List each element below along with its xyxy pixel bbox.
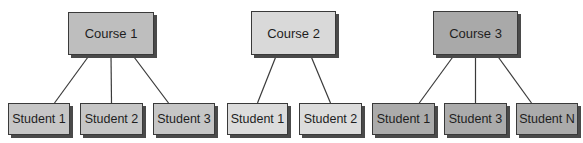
connector-line	[133, 55, 169, 103]
course-1-student-node-label: Student 3	[157, 112, 211, 126]
course-1-student-node-label: Student 2	[85, 112, 139, 126]
connector-line	[111, 55, 112, 103]
connector-line	[419, 55, 454, 103]
course-1-student-node: Student 1	[8, 103, 70, 135]
course-3-student-node-label: Student 3	[449, 112, 503, 126]
course-3-student-node-label: Student 1	[377, 112, 431, 126]
course-3-node-label: Course 3	[449, 26, 502, 41]
course-2-node: Course 2	[251, 11, 336, 55]
course-2-node-label: Course 2	[267, 26, 320, 41]
connector-line	[311, 55, 331, 103]
course-3-student-node: Student N	[516, 103, 578, 135]
connector-line	[497, 55, 532, 103]
course-3-student-node: Student 3	[444, 103, 507, 135]
course-1-student-node: Student 3	[153, 103, 215, 135]
connector-line	[258, 55, 277, 103]
connector-line	[55, 55, 90, 103]
course-1-student-node: Student 2	[80, 103, 143, 135]
course-2-student-node: Student 1	[227, 103, 288, 135]
course-3-student-node-label: Student N	[519, 112, 575, 126]
course-1-node-label: Course 1	[85, 26, 138, 41]
course-1-student-node-label: Student 1	[12, 112, 66, 126]
course-2-student-node: Student 2	[299, 103, 362, 135]
course-2-student-node-label: Student 2	[304, 112, 358, 126]
course-3-node: Course 3	[433, 11, 518, 55]
course-1-node: Course 1	[68, 12, 154, 55]
course-3-student-node: Student 1	[372, 103, 435, 135]
course-2-student-node-label: Student 1	[231, 112, 285, 126]
